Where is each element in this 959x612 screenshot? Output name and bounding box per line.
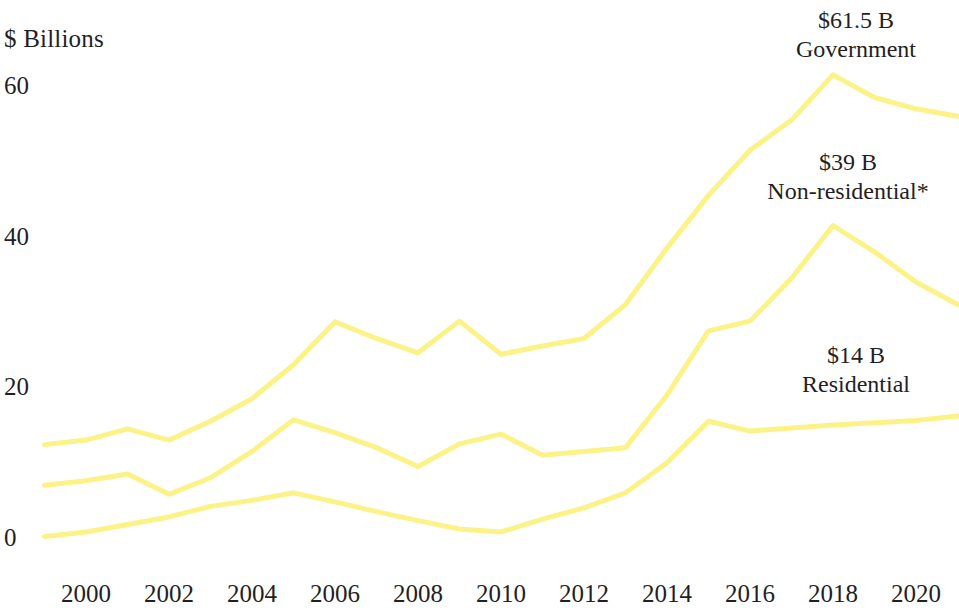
annotation-value: $61.5 B [796, 6, 916, 35]
annotation-value: $14 B [802, 341, 910, 370]
series-path-group [45, 75, 958, 537]
annotation-series-name: Government [796, 35, 916, 64]
series-annotation-non-residential: $39 BNon-residential* [767, 148, 928, 206]
x-axis-tick-2016: 2016 [725, 581, 775, 606]
annotation-value: $39 B [767, 148, 928, 177]
annotation-series-name: Residential [802, 370, 910, 399]
x-axis-tick-2018: 2018 [808, 581, 858, 606]
y-axis-tick-20: 20 [4, 374, 29, 399]
x-axis-tick-2010: 2010 [476, 581, 526, 606]
chart-plot-area [0, 0, 959, 612]
x-axis-tick-2020: 2020 [891, 581, 941, 606]
x-axis-tick-2004: 2004 [227, 581, 277, 606]
y-axis-unit-label: $ Billions [4, 26, 104, 51]
y-axis-tick-40: 40 [4, 224, 29, 249]
y-axis-tick-0: 0 [4, 525, 17, 550]
series-annotation-residential: $14 BResidential [802, 341, 910, 399]
x-axis-tick-2014: 2014 [642, 581, 692, 606]
x-axis-tick-2002: 2002 [144, 581, 194, 606]
x-axis-tick-2000: 2000 [61, 581, 111, 606]
x-axis-tick-2006: 2006 [310, 581, 360, 606]
series-annotation-government: $61.5 BGovernment [796, 6, 916, 64]
x-axis-tick-2012: 2012 [559, 581, 609, 606]
y-axis-tick-60: 60 [4, 73, 29, 98]
annotation-series-name: Non-residential* [767, 177, 928, 206]
chart-root: $ Billions 0204060 200020022004200620082… [0, 0, 959, 612]
x-axis-tick-2008: 2008 [393, 581, 443, 606]
